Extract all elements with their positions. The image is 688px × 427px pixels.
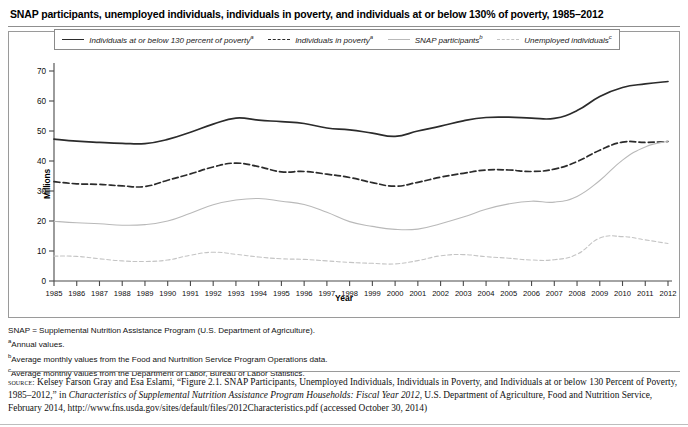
x-axis-tick-label: 2008 bbox=[569, 289, 586, 298]
y-axis-tick-label: 60 bbox=[37, 97, 47, 106]
x-axis-tick-label: 1992 bbox=[205, 289, 222, 298]
source-title-italic: Characteristics of Supplemental Nutritio… bbox=[69, 390, 420, 400]
figure-source: source: Kelsey Farson Gray and Esa Eslam… bbox=[8, 376, 680, 416]
y-axis-tick-label: 70 bbox=[37, 67, 47, 76]
x-axis-tick-label: 1998 bbox=[341, 289, 358, 298]
x-axis-tick-label: 2002 bbox=[432, 289, 449, 298]
x-axis-tick-label: 1988 bbox=[114, 289, 131, 298]
x-axis-tick-label: 1986 bbox=[68, 289, 85, 298]
x-axis-tick-label: 2001 bbox=[409, 289, 426, 298]
x-axis-tick-label: 1991 bbox=[182, 289, 199, 298]
x-axis-tick-label: 2005 bbox=[500, 289, 517, 298]
x-axis-tick-label: 1985 bbox=[46, 289, 63, 298]
x-axis-tick-label: 2000 bbox=[387, 289, 404, 298]
y-axis-tick-label: 10 bbox=[37, 247, 47, 256]
series-line-3 bbox=[54, 236, 668, 264]
y-axis-tick-label: 30 bbox=[37, 187, 47, 196]
x-axis-tick-label: 2011 bbox=[637, 289, 653, 298]
x-axis-tick-label: 1997 bbox=[318, 289, 335, 298]
x-axis-tick-label: 1993 bbox=[227, 289, 244, 298]
page-bottom-divider bbox=[0, 424, 688, 425]
series-line-1 bbox=[54, 141, 668, 187]
note-line: SNAP = Supplemental Nutrition Assistance… bbox=[8, 322, 680, 336]
x-axis-tick-label: 1989 bbox=[137, 289, 154, 298]
series-line-0 bbox=[54, 82, 668, 144]
page-title: SNAP participants, unemployed individual… bbox=[10, 8, 678, 21]
y-axis-tick-label: 50 bbox=[37, 127, 47, 136]
y-axis-tick-label: 20 bbox=[37, 217, 47, 226]
plot-area: Millions Year 01020304050607019851986198… bbox=[8, 31, 680, 318]
y-axis-tick-label: 40 bbox=[37, 157, 47, 166]
note-line: aAnnual values. bbox=[8, 336, 680, 350]
x-axis-tick-label: 2004 bbox=[478, 289, 495, 298]
x-axis-tick-label: 2007 bbox=[546, 289, 563, 298]
x-axis-tick-label: 1996 bbox=[296, 289, 313, 298]
y-axis-tick-label: 0 bbox=[41, 277, 46, 286]
x-axis-tick-label: 1987 bbox=[91, 289, 108, 298]
x-axis-tick-label: 2003 bbox=[455, 289, 472, 298]
x-axis-tick-label: 1995 bbox=[273, 289, 290, 298]
figure-page: SNAP participants, unemployed individual… bbox=[0, 0, 688, 427]
x-axis-tick-label: 2012 bbox=[660, 289, 677, 298]
figure-title-bar: SNAP participants, unemployed individual… bbox=[0, 0, 688, 27]
x-axis-tick-label: 2009 bbox=[591, 289, 608, 298]
notes-divider bbox=[8, 371, 680, 372]
x-axis-tick-label: 2006 bbox=[523, 289, 540, 298]
x-axis-tick-label: 1994 bbox=[250, 289, 267, 298]
source-label: source: bbox=[8, 377, 35, 387]
x-axis-tick-label: 1999 bbox=[364, 289, 381, 298]
x-axis-tick-label: 2010 bbox=[614, 289, 631, 298]
note-line: bAverage monthly values from the Food an… bbox=[8, 351, 680, 365]
x-axis-tick-label: 1990 bbox=[159, 289, 176, 298]
title-divider bbox=[8, 26, 680, 27]
line-chart: 0102030405060701985198619871988198919901… bbox=[8, 31, 680, 318]
